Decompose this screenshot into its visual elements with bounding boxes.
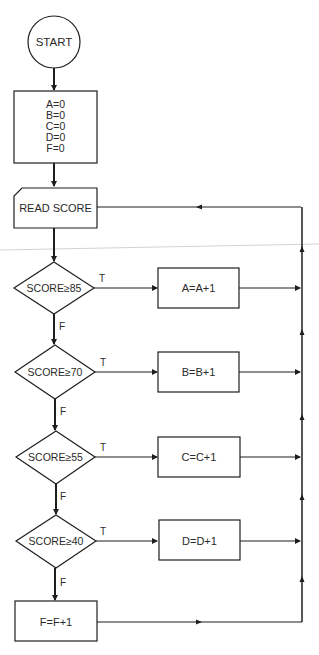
init-assignments: A=0 B=0 C=0 D=0 F=0	[14, 99, 97, 154]
flowchart-canvas: START A=0 B=0 C=0 D=0 F=0 READ SCORE SCO…	[0, 0, 319, 655]
start-label: START	[28, 37, 80, 49]
action-f-label: F=F+1	[15, 617, 97, 628]
decision-1-label: SCORE≥85	[14, 283, 94, 294]
decision-4-true-label: T	[100, 527, 106, 537]
decision-1-true-label: T	[99, 274, 105, 284]
decision-3-true-label: T	[100, 443, 106, 453]
decision-4-false-label: F	[60, 578, 66, 588]
action-a-label: A=A+1	[158, 283, 239, 294]
action-c-label: C=C+1	[158, 452, 240, 463]
action-d-label: D=D+1	[159, 536, 240, 547]
init-line-f: F=0	[14, 143, 97, 154]
decision-4-label: SCORE≥40	[16, 536, 96, 547]
read-score-label: READ SCORE	[14, 203, 97, 214]
scan-artifact-line	[0, 244, 319, 250]
decision-3-false-label: F	[60, 492, 66, 502]
decision-2-label: SCORE≥70	[15, 367, 95, 378]
decision-3-label: SCORE≥55	[16, 452, 95, 463]
decision-1-false-label: F	[59, 322, 65, 332]
decision-2-true-label: T	[100, 358, 106, 368]
decision-2-false-label: F	[60, 407, 66, 417]
action-b-label: B=B+1	[158, 367, 239, 378]
